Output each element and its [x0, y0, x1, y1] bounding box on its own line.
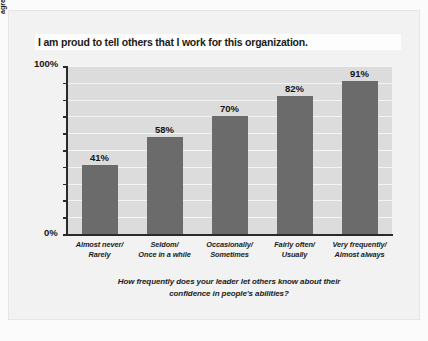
x-axis-tick-label: Seldom/Once in a while	[132, 240, 197, 260]
x-axis-tick-label-line-1: Occasionally/	[197, 240, 262, 250]
x-axis-tick-label-line-1: Seldom/	[132, 240, 197, 250]
bar-slot: 58%	[132, 66, 197, 234]
bar	[212, 116, 248, 234]
x-axis-tick-label-line-2: Rarely	[67, 250, 132, 260]
plot-area-wrapper: 41%58%70%82%91%	[67, 66, 392, 234]
bar-slot: 82%	[262, 66, 327, 234]
x-axis-title: How frequently does your leader let othe…	[64, 276, 394, 300]
x-axis-line	[66, 234, 393, 236]
y-axis-tick-label-max: 100%	[34, 58, 58, 69]
bar	[147, 137, 183, 234]
x-axis-title-line-1: How frequently does your leader let othe…	[64, 276, 394, 288]
x-axis-tick-label: Very frequently/Almost always	[327, 240, 392, 260]
bar-value-label: 41%	[90, 152, 109, 163]
x-axis-tick-label-line-1: Fairly often/	[262, 240, 327, 250]
chart-figure: I am proud to tell others that I work fo…	[0, 0, 428, 341]
x-axis-tick-label-line-2: Usually	[262, 250, 327, 260]
y-axis-line	[66, 66, 68, 235]
x-axis-tick-label: Almost never/Rarely	[67, 240, 132, 260]
x-axis-tick-label: Occasionally/Sometimes	[197, 240, 262, 260]
bar-value-label: 82%	[285, 83, 304, 94]
x-axis-tick-label-line-2: Sometimes	[197, 250, 262, 260]
chart-title: I am proud to tell others that I work fo…	[35, 34, 401, 50]
x-axis-tick-label: Fairly often/Usually	[262, 240, 327, 260]
x-axis-tick-label-line-2: Almost always	[327, 250, 392, 260]
bar	[82, 165, 118, 234]
x-axis-tick-label-line-1: Very frequently/	[327, 240, 392, 250]
y-axis-tick-label-min: 0%	[44, 227, 58, 238]
y-axis-title: Percentage of direct reports who agree w…	[0, 0, 7, 14]
bar	[277, 96, 313, 234]
bar-slot: 41%	[67, 66, 132, 234]
bar-slot: 91%	[327, 66, 392, 234]
x-axis-tick-label-line-2: Once in a while	[132, 250, 197, 260]
y-axis-title-line-2: agree with this statement	[0, 0, 7, 14]
bar	[342, 81, 378, 234]
x-axis-title-line-2: confidence in people's abilities?	[64, 288, 394, 300]
x-axis-tick-label-line-1: Almost never/	[67, 240, 132, 250]
bar-value-label: 70%	[220, 103, 239, 114]
bar-value-label: 58%	[155, 124, 174, 135]
bar-slot: 70%	[197, 66, 262, 234]
bar-value-label: 91%	[350, 68, 369, 79]
